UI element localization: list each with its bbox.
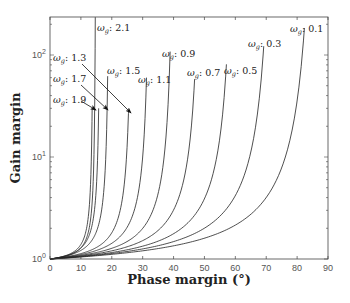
x-tick-label: 0 [47, 263, 52, 273]
curve-label: ωg: 1.7 [53, 73, 86, 86]
gain-phase-margin-chart: 0102030405060708090100101102 ωg: 2.1ωg: … [0, 0, 350, 303]
curve-series-1 [50, 108, 92, 259]
curve-series-7 [50, 79, 195, 259]
x-axis-title: Phase margin (°) [127, 272, 251, 287]
curve-label: ωg: 0.5 [224, 65, 257, 78]
curve-series-4 [50, 110, 129, 259]
curve-label: ωg: 0.3 [248, 38, 281, 51]
annotation-arrow [81, 101, 96, 110]
x-tick-label: 90 [323, 263, 333, 273]
y-tick-label: 101 [32, 150, 46, 162]
curve-label: ωg: 1.3 [53, 52, 86, 65]
x-tick-label: 10 [76, 263, 86, 273]
curve-series-10 [50, 28, 304, 259]
curve-label: ωg: 1.1 [138, 74, 171, 87]
curve-label: ωg: 1.9 [53, 94, 86, 107]
curve-label: ωg: 0.9 [162, 48, 195, 61]
curve-label: ωg: 0.1 [290, 23, 323, 36]
curve-label: ωg: 2.1 [97, 22, 130, 35]
x-tick-label: 80 [292, 263, 302, 273]
curve-label: ωg: 1.5 [107, 65, 140, 78]
y-tick-label: 100 [32, 252, 46, 264]
y-axis-title: Gain margin [8, 92, 23, 183]
y-tick-label: 102 [32, 48, 46, 60]
curve-label: ωg: 0.7 [187, 67, 220, 80]
curve-labels: ωg: 2.1ωg: 1.3ωg: 1.5ωg: 1.7ωg: 1.9ωg: 1… [53, 22, 323, 113]
x-tick-label: 70 [261, 263, 271, 273]
x-tick-label: 20 [107, 263, 117, 273]
curve-series-2 [50, 108, 99, 259]
